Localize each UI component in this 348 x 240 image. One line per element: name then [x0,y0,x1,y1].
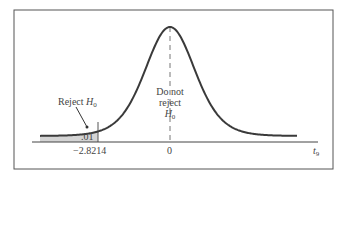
do-not-reject-label: Do not reject H0 [150,86,190,123]
reject-h0-label: Reject H0 [58,96,97,111]
zero-tick-label: 0 [167,145,172,156]
alpha-label: .01 [81,131,94,142]
x-axis-label: t9 [313,145,319,160]
arrow-head [86,126,89,129]
critical-value-tick-label: −2.8214 [73,145,106,156]
